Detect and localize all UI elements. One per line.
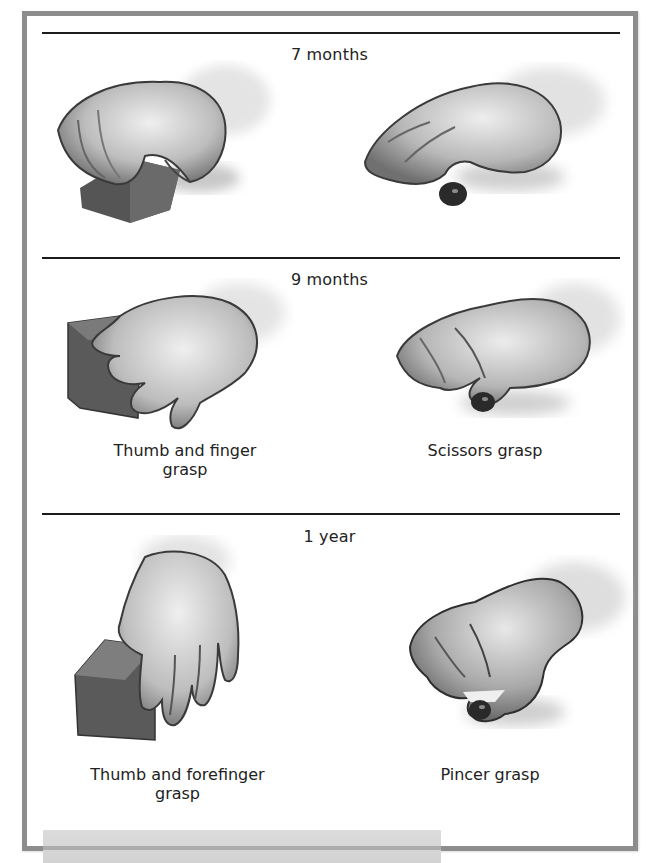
caption-thumb-forefinger-grasp: Thumb and forefinger grasp — [60, 765, 295, 803]
caption-line: Thumb and forefinger — [60, 765, 295, 784]
frame-bottom-edge — [43, 846, 441, 850]
hand-grasping-block-palmar-illustration — [50, 60, 280, 240]
hand-pincer-grasp-pellet-illustration — [395, 552, 635, 742]
hand-grasping-block-thumb-finger-illustration — [60, 278, 300, 438]
caption-line: grasp — [60, 784, 295, 803]
caption-line: grasp — [90, 460, 280, 479]
section-divider — [42, 32, 620, 34]
hand-raking-pellet-illustration — [360, 62, 640, 222]
hand-scissors-grasp-pellet-illustration — [385, 278, 625, 428]
section-divider — [42, 513, 620, 515]
caption-scissors-grasp: Scissors grasp — [395, 441, 575, 460]
hand-grasping-block-thumb-forefinger-illustration — [70, 535, 270, 750]
caption-line: Thumb and finger — [90, 441, 280, 460]
section-divider — [42, 257, 620, 259]
caption-thumb-finger-grasp: Thumb and finger grasp — [90, 441, 280, 479]
caption-line: Scissors grasp — [395, 441, 575, 460]
caption-pincer-grasp: Pincer grasp — [410, 765, 570, 784]
caption-line: Pincer grasp — [410, 765, 570, 784]
